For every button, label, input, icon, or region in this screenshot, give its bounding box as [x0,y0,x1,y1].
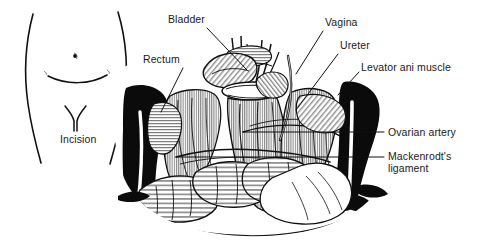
right-hip-dimple [107,70,109,74]
label-mackenrodt-ligament: Mackenrodt's ligament [388,150,451,174]
label-levator-ani-muscle: Levator ani muscle [361,61,451,73]
label-bladder: Bladder [168,13,205,25]
label-ovarian-artery: Ovarian artery [388,126,456,138]
abdomen-left-flank [26,14,41,163]
label-incision: Incision [60,133,96,145]
vagina [256,72,288,98]
incision-mark [65,106,86,131]
left-hip-dimple [44,71,46,75]
figure-container: Bladder Rectum Vagina Ureter Levator ani… [0,0,478,245]
pubic-crease [48,75,107,83]
label-ureter: Ureter [340,39,370,51]
label-vagina: Vagina [325,16,358,28]
anatomy-illustration [0,0,478,245]
label-rectum: Rectum [143,53,180,65]
